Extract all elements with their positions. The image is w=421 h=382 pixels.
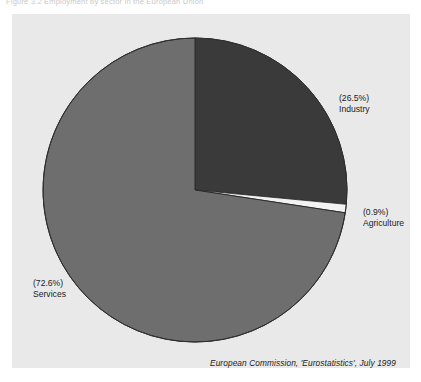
pie-wedge-group bbox=[43, 38, 347, 342]
pie-graphic bbox=[12, 14, 410, 368]
label-industry-percent: (26.5%) bbox=[339, 93, 370, 104]
label-industry-name: Industry bbox=[339, 104, 370, 115]
pie-wedge-industry[interactable] bbox=[195, 38, 347, 204]
label-agriculture: (0.9%) Agriculture bbox=[363, 207, 404, 229]
label-services: (72.6%) Services bbox=[33, 278, 66, 300]
chart-plot-area: (26.5%) Industry (0.9%) Agriculture (72.… bbox=[12, 14, 410, 368]
label-agriculture-percent: (0.9%) bbox=[363, 207, 404, 218]
pie-chart-figure: Figure 3.2 Employment by sector in the E… bbox=[0, 0, 421, 382]
figure-caption: Figure 3.2 Employment by sector in the E… bbox=[6, 0, 406, 7]
label-agriculture-name: Agriculture bbox=[363, 218, 404, 229]
label-services-percent: (72.6%) bbox=[33, 278, 66, 289]
label-industry: (26.5%) Industry bbox=[339, 93, 370, 115]
label-services-name: Services bbox=[33, 289, 66, 300]
source-attribution: European Commission, 'Eurostatistics', J… bbox=[210, 358, 396, 368]
